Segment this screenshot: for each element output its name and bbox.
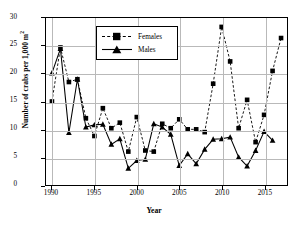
chart-figure: Number of crabs per 1,000 m2 30 25 20 15…: [0, 0, 308, 230]
data-point-females: [228, 59, 233, 64]
gridline-x-2010: [223, 18, 224, 185]
data-point-males: [253, 147, 259, 152]
y-tick-label-25: 25: [0, 41, 17, 48]
data-point-males: [185, 151, 191, 156]
y-tick-mark-0: [41, 186, 45, 187]
x-axis-title: Year: [0, 206, 308, 215]
gridline-y-15: [46, 103, 287, 104]
data-point-females: [151, 149, 156, 154]
y-tick-label-15: 15: [0, 97, 17, 104]
legend-swatch-females: [101, 31, 133, 42]
legend-swatch-males: [101, 44, 133, 55]
data-point-females: [211, 81, 216, 86]
legend-item-females: Females: [101, 30, 177, 43]
data-point-females: [245, 98, 250, 103]
data-point-females: [101, 106, 106, 111]
x-tick-mark-2010: [222, 186, 223, 190]
legend-label-males: Males: [138, 46, 156, 54]
series-line-males: [52, 49, 273, 169]
x-tick-mark-2000: [137, 186, 138, 190]
gridline-y-20: [46, 74, 287, 75]
data-point-males: [108, 141, 114, 146]
y-tick-label-30: 30: [0, 14, 17, 21]
legend: Females Males: [96, 26, 178, 60]
gridline-x-2005: [180, 18, 181, 185]
data-point-females: [67, 80, 72, 85]
data-point-females: [253, 140, 258, 145]
gridline-x-1990: [52, 18, 53, 185]
y-tick-label-5: 5: [0, 153, 17, 160]
x-tick-mark-1995: [94, 186, 95, 190]
y-axis-title-text: Number of crabs per 1,000 m: [21, 34, 30, 129]
x-tick-label-2015: 2015: [248, 190, 282, 197]
y-axis-title-superscript: 2: [19, 31, 25, 34]
y-tick-label-20: 20: [0, 69, 17, 76]
x-tick-label-2000: 2000: [120, 190, 154, 197]
data-point-females: [279, 36, 284, 41]
data-point-females: [118, 120, 123, 125]
gridline-y-5: [46, 159, 287, 160]
y-tick-label-0: 0: [0, 181, 17, 188]
gridline-x-2015: [266, 18, 267, 185]
legend-item-males: Males: [101, 43, 177, 56]
data-point-males: [117, 136, 123, 141]
data-point-males: [151, 121, 157, 126]
data-point-females: [270, 69, 275, 74]
x-tick-label-1990: 1990: [34, 190, 68, 197]
gridline-y-10: [46, 131, 287, 132]
x-tick-label-2010: 2010: [205, 190, 239, 197]
legend-label-females: Females: [138, 33, 162, 41]
x-tick-mark-2015: [265, 186, 266, 190]
x-tick-mark-1990: [51, 186, 52, 190]
data-point-males: [227, 134, 233, 139]
x-tick-label-2005: 2005: [162, 190, 196, 197]
y-axis-title: Number of crabs per 1,000 m2: [18, 0, 30, 160]
x-tick-mark-2005: [179, 186, 180, 190]
data-point-females: [126, 149, 131, 154]
y-tick-label-10: 10: [0, 125, 17, 132]
x-tick-label-1995: 1995: [77, 190, 111, 197]
